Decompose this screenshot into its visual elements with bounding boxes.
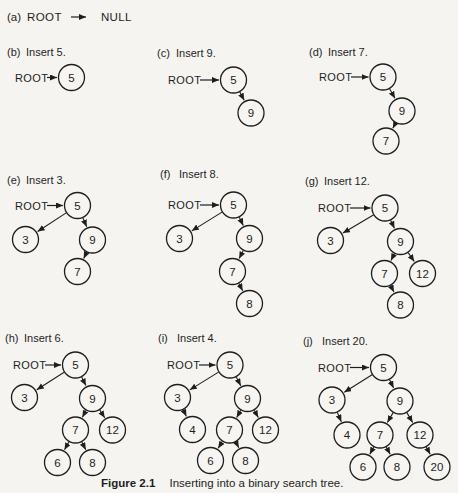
tree-edge-9-7 [84,252,87,258]
tree-edge-5-9 [82,377,86,386]
tree-edge-7-8 [239,283,243,290]
panel-title: Insert 7. [328,46,368,58]
tree-edge-9-7 [393,123,396,128]
node-5-value: 5 [380,71,386,83]
node-9-value: 9 [244,393,250,405]
tree-edge-5-3 [192,212,222,231]
root-label: ROOT [319,71,352,83]
tree-edge-7-6 [65,442,69,450]
node-9-value: 9 [89,234,95,246]
panel-a-index: (a) [7,11,21,23]
figure-page: (a) ROOT NULL (b)Insert 5.ROOT5(c)Insert… [0,0,458,493]
tree-edge-5-9 [236,377,241,386]
panel-index: (h) [5,332,18,344]
panel-index: (c) [157,47,170,59]
node-5-value: 5 [230,74,236,86]
panel-index: (j) [303,335,313,347]
node-5-value: 5 [380,362,386,374]
node-3-value: 3 [176,233,182,245]
node-5-value: 5 [227,359,233,371]
panel-index: (f) [160,168,170,180]
node-7-value: 7 [229,266,235,278]
panel-title: Insert 4. [177,332,217,344]
panel-title: Insert 9. [176,47,216,59]
tree-edge-9-7 [387,413,393,423]
node-9-value: 9 [397,395,403,407]
node-3-value: 3 [329,394,335,406]
node-5-value: 5 [382,202,388,214]
tree-edge-5-9 [390,89,395,99]
tree-edge-5-3 [37,372,64,389]
tree-edge-9-7 [82,410,86,417]
panel-a-root-label: ROOT [27,11,62,23]
tree-edge-7-6 [218,441,222,448]
node-9-value: 9 [89,393,95,405]
tree-edge-9-7 [391,254,394,261]
tree-edge-9-7 [237,410,241,417]
tree-panel-h: (h)Insert 6.ROOT53971268 [0,330,158,493]
node-5-value: 5 [230,199,236,211]
tree-edge-5-9 [83,218,87,227]
node-3-value: 3 [174,392,180,404]
node-12-value: 12 [416,268,429,280]
tree-edge-3-4 [337,412,341,421]
right-arrow-icon [70,12,94,22]
tree-panel-g: (g)Insert 12.ROOT5397128 [300,165,458,330]
node-9-value: 9 [246,233,252,245]
tree-edge-7-8 [82,442,86,450]
node-8-value: 8 [394,461,400,473]
root-label: ROOT [318,362,351,374]
root-label: ROOT [167,359,200,371]
tree-panel-e: (e)Insert 3.ROOT5397 [0,165,158,330]
node-3-value: 3 [22,234,28,246]
node-6-value: 6 [207,455,213,467]
node-3-value: 3 [327,235,333,247]
node-5-value: 5 [74,200,80,212]
tree-edge-7-6 [370,447,374,454]
tree-edge-5-9 [389,380,393,388]
root-label: ROOT [318,202,351,214]
node-7-value: 7 [226,424,232,436]
node-9-value: 9 [399,105,405,117]
tree-edge-9-12 [100,410,105,418]
tree-edge-9-12 [407,413,413,423]
panel-title: Insert 8. [179,168,219,180]
node-8-value: 8 [89,457,95,469]
panel-title: Insert 20. [322,335,368,347]
tree-edge-7-8 [236,442,239,448]
node-9-value: 9 [248,107,254,119]
panel-title: Insert 6. [24,332,64,344]
tree-edge-7-8 [386,447,390,454]
node-4-value: 4 [189,424,196,436]
node-6-value: 6 [360,461,366,473]
tree-edge-9-7 [239,251,243,259]
tree-panel-j: (j)Insert 20.ROOT53947126820 [300,330,458,493]
figure-caption-text: Inserting into a binary search tree. [170,477,344,489]
panel-index: (i) [158,332,168,344]
node-7-value: 7 [383,135,389,147]
tree-edge-5-3 [38,213,67,232]
tree-edge-9-12 [254,410,258,417]
panel-index: (g) [305,175,318,187]
node-8-value: 8 [246,298,252,310]
tree-edge-5-3 [190,372,219,390]
panel-a-row: (a) ROOT NULL [7,11,132,23]
panel-title: Insert 5. [26,46,66,58]
tree-edge-5-9 [391,220,395,228]
panel-a-null-label: NULL [101,11,132,23]
figure-caption-number: Figure 2.1 [101,477,155,489]
tree-panel-f: (f)Insert 8.ROOT53978 [150,165,308,330]
node-9-value: 9 [397,236,403,248]
node-20-value: 20 [431,461,444,473]
node-3-value: 3 [21,392,27,404]
tree-edge-3-4 [183,410,186,417]
root-label: ROOT [13,359,46,371]
tree-edge-12-20 [426,447,430,454]
node-5-value: 5 [68,72,74,84]
node-7-value: 7 [377,429,383,441]
root-label: ROOT [168,74,201,86]
node-7-value: 7 [72,424,78,436]
panel-index: (e) [7,174,20,186]
node-7-value: 7 [74,266,80,278]
panel-index: (b) [7,46,20,58]
